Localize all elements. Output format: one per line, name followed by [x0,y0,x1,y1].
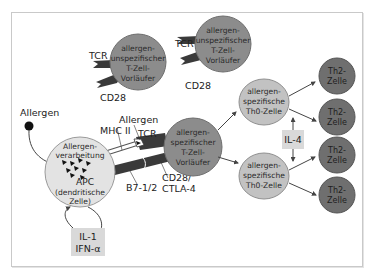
th0-cell-2: allergen- spezifische Th0-Zelle [239,153,289,199]
apc-name-line2: (dendritische [55,188,105,197]
th2-cell-2-line1: Th2- [327,108,346,117]
differentiation-arrow-upper [218,112,236,130]
th2-cell-4-line2: Zelle [327,196,347,205]
th2-cell-1-line2: Zelle [327,77,347,86]
th2-cell-1: Th2- Zelle [319,58,355,94]
cd28-label: CD28 [185,80,211,91]
nonspecific-tcell-1: allergen- unspezifischer T-Zell- Vorläuf… [88,34,166,103]
th0-cell-1: allergen- spezifische Th0-Zelle [239,79,289,125]
cd28-ctla4-label-line2: CTLA-4 [162,183,196,194]
cd28-label: CD28 [100,92,126,103]
th2-cell-1-line1: Th2- [327,67,346,76]
tcr-label: TCR [174,38,194,49]
synapse-allergen-label: Allergen [119,114,158,125]
apc-processing-line1: Allergen- [63,142,97,151]
nonspecific-tcell-1-line2: unspezifischer [111,54,167,63]
th2-cell-2-line2: Zelle [327,118,347,127]
apc-name-line1: APC [76,177,94,187]
differentiation-arrow-lower [218,157,238,163]
nonspecific-tcell-2-line1: allergen- [206,26,240,35]
specific-tcell-precursor: allergen- spezifischer T-Zell- Vorläufer [164,118,222,176]
cytokine-feedback-arrow [65,207,73,228]
nonspecific-tcell-2-line3: T-Zell- [210,46,235,55]
nonspecific-tcell-2-line4: Vorläufer [206,56,241,65]
th2-cell-2: Th2- Zelle [319,99,355,135]
nonspecific-tcell-2-line2: unspezifischer [196,36,252,45]
th2-cell-4: Th2- Zelle [319,177,355,213]
diagram-stage: allergen- unspezifischer T-Zell- Vorläuf… [0,0,375,275]
th0-cell-1-line1: allergen- [247,87,281,96]
apc-cytokine-loop: IL-1 IFN-α [65,207,105,256]
nonspecific-tcell-1-line3: T-Zell- [125,64,150,73]
th2-arrow-4 [289,183,316,195]
specific-precursor-line2: spezifischer [170,138,216,147]
th2-arrow-1 [289,82,315,96]
th2-cell-3-line1: Th2- [327,146,346,155]
ifn-alpha-label: IFN-α [75,243,100,254]
th0-cell-2-line1: allergen- [247,161,281,170]
nonspecific-tcell-1-line4: Vorläufer [121,74,156,83]
nonspecific-tcell-2: allergen- unspezifischer T-Zell- Vorläuf… [174,16,251,91]
th2-cell-3: Th2- Zelle [319,137,355,173]
il4-label: IL-4 [284,134,301,145]
th2-cell-4-line1: Th2- [327,186,346,195]
synapse-tcr-label: TCR [137,128,157,139]
th2-cell-3-line2: Zelle [327,156,347,165]
il4-cytokine: IL-4 [282,118,304,161]
specific-precursor-body [164,118,222,176]
apc-dendritic-cell: Allergen- verarbeitung APC (dendritische… [45,137,115,207]
mhc-ii-label: MHC II [100,125,131,136]
th0-cell-2-line3: Th0-Zelle [245,181,282,190]
il1-label: IL-1 [79,231,96,242]
b7-label: B7-1/2 [126,182,157,193]
diagram-canvas: allergen- unspezifischer T-Zell- Vorläuf… [0,0,375,275]
apc-processing-line2: verarbeitung [55,151,104,160]
th0-cell-2-line2: spezifische [243,171,285,180]
apc-name-line3: Zelle) [69,197,91,206]
th0-cell-1-line3: Th0-Zelle [245,107,282,116]
specific-precursor-line1: allergen- [176,128,210,137]
specific-precursor-line3: T-Zell- [180,148,205,157]
specific-precursor-line4: Vorläufer [176,158,211,167]
allergen-dot-icon [25,122,34,131]
tcr-label: TCR [88,50,108,61]
allergen-source-label: Allergen [20,107,59,118]
nonspecific-tcell-1-line1: allergen- [121,44,155,53]
th0-cell-1-line2: spezifische [243,97,285,106]
